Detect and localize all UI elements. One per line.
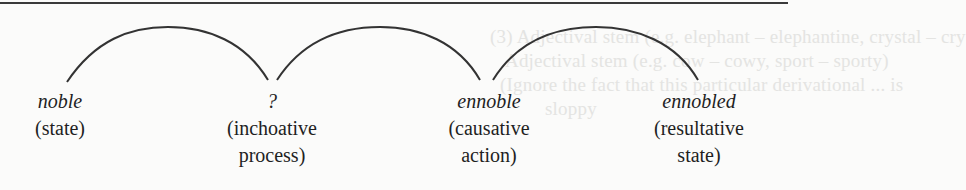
term-ennoble: ennoble <box>424 88 554 115</box>
arc-inchoative-to-causative <box>277 27 480 80</box>
term-unknown: ? <box>205 88 339 115</box>
arc-noble-to-inchoative <box>67 27 268 82</box>
node-inchoative-process: ? (inchoative process) <box>205 88 339 169</box>
node-causative-action: ennoble (causative action) <box>424 88 554 169</box>
gloss-line: process) <box>205 142 339 169</box>
arc-causative-to-resultative <box>493 27 698 80</box>
gloss-line: state) <box>630 142 768 169</box>
node-resultative-state: ennobled (resultative state) <box>630 88 768 169</box>
gloss-line: (causative <box>424 115 554 142</box>
gloss-line: (inchoative <box>205 115 339 142</box>
gloss-line: (state) <box>10 115 110 142</box>
term-ennobled: ennobled <box>630 88 768 115</box>
gloss-line: action) <box>424 142 554 169</box>
gloss-line: (resultative <box>630 115 768 142</box>
node-state: noble (state) <box>10 88 110 142</box>
term-noble: noble <box>10 88 110 115</box>
